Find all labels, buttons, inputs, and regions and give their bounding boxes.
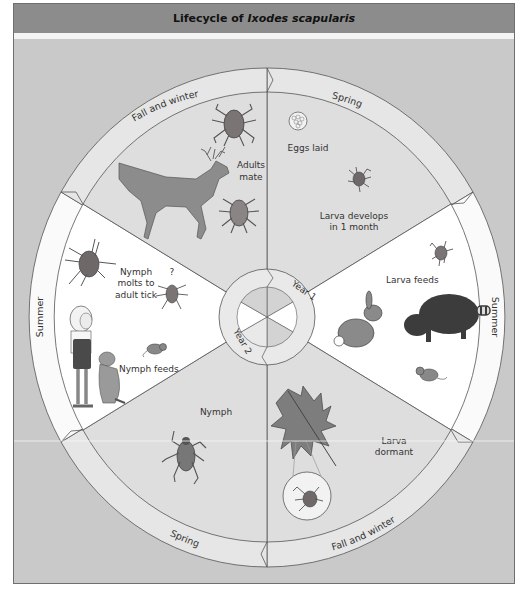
lifecycle-wheel: Fall and winter Spring Spring Fall and w…	[14, 4, 515, 584]
label-nymph: Nymph	[200, 407, 232, 417]
dormant-larva-magnifier-icon	[283, 472, 331, 520]
label-nymph-molts-3: adult tick	[115, 290, 158, 300]
label-nymph-feeds: Nymph feeds	[119, 364, 179, 374]
label-nymph-molts-2: molts to	[118, 278, 155, 288]
egg-cluster-icon	[289, 112, 307, 130]
label-mate: mate	[239, 172, 263, 182]
label-eggs-laid: Eggs laid	[288, 143, 329, 153]
label-larva-feeds: Larva feeds	[386, 275, 439, 285]
diagram-frame: Lifecycle of Ixodes scapularis	[13, 3, 515, 584]
season-label-left: Summer	[34, 297, 45, 337]
question-mark: ?	[170, 267, 175, 277]
label-adults: Adults	[237, 160, 265, 170]
label-larva-develops: Larva develops	[320, 211, 389, 221]
label-nymph-molts-1: Nymph	[120, 267, 152, 277]
label-dormant: dormant	[375, 447, 414, 457]
label-in-1-month: in 1 month	[330, 222, 379, 232]
season-label-right: Summer	[490, 297, 501, 337]
